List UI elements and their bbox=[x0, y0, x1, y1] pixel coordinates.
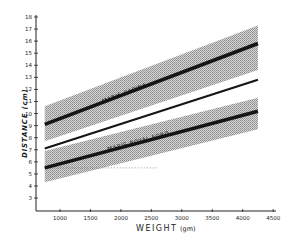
x-tick-label: 2500 bbox=[144, 215, 158, 221]
y-axis-title: DISTANCE (cm) bbox=[21, 88, 29, 158]
x-tick-label: 1500 bbox=[83, 215, 97, 221]
x-tick-label: 3000 bbox=[175, 215, 189, 221]
x-axis-unit: (gm) bbox=[180, 225, 196, 233]
y-tick-label: 14 bbox=[25, 62, 32, 68]
x-tick-label: 2000 bbox=[114, 215, 128, 221]
x-tick-label: 4500 bbox=[266, 215, 280, 221]
y-tick-label: 13 bbox=[25, 74, 32, 80]
chart: 3456789101112131415161718100015002000250… bbox=[0, 0, 301, 243]
y-tick-label: 3 bbox=[29, 195, 33, 201]
y-tick-label: 17 bbox=[25, 26, 32, 32]
x-tick-label: 3500 bbox=[205, 215, 219, 221]
y-tick-label: 5 bbox=[29, 171, 33, 177]
x-tick-label: 4000 bbox=[236, 215, 250, 221]
y-tick-label: 9 bbox=[29, 123, 33, 129]
y-tick-label: 15 bbox=[25, 50, 32, 56]
y-tick-label: 16 bbox=[25, 38, 32, 44]
x-axis-title: WEIGHT bbox=[136, 224, 177, 233]
y-tick-label: 8 bbox=[29, 135, 33, 141]
y-tick-label: 4 bbox=[29, 183, 33, 189]
y-tick-label: 18 bbox=[25, 14, 32, 20]
x-tick-label: 1000 bbox=[53, 215, 67, 221]
y-tick-label: 7 bbox=[29, 147, 33, 153]
y-tick-label: 6 bbox=[29, 159, 33, 165]
